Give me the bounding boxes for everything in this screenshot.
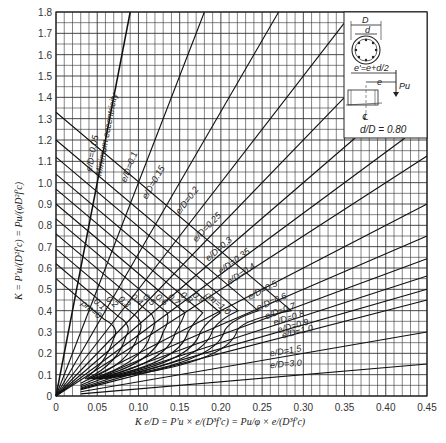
section-inset: D d e'=e+d/2 e Pu ℄ d/D = 0.80 (344, 12, 427, 138)
inset-ratio-label: d/D = 0.80 (360, 124, 407, 135)
svg-text:0.30: 0.30 (294, 402, 314, 413)
inset-D-label: D (362, 15, 369, 25)
svg-text:0.10: 0.10 (129, 402, 149, 413)
svg-text:1.0: 1.0 (38, 178, 52, 189)
svg-text:e/D=3.0: e/D=3.0 (270, 358, 303, 371)
svg-text:0.20: 0.20 (211, 402, 231, 413)
svg-text:0.5: 0.5 (38, 284, 52, 295)
inset-pu-label: Pu (399, 81, 410, 91)
y-axis-title: K = P'u/(D²f'c) = Pu/(φD²f'c) (13, 181, 25, 301)
svg-text:1.5: 1.5 (38, 71, 52, 82)
svg-text:0.8: 0.8 (38, 220, 52, 231)
svg-text:0.2: 0.2 (38, 348, 52, 359)
svg-text:e/D=0.2: e/D=0.2 (173, 185, 200, 216)
interaction-chart: D d e'=e+d/2 e Pu ℄ d/D = 0.80 00.050.10… (0, 0, 446, 443)
svg-text:1.2: 1.2 (38, 135, 52, 146)
svg-text:1.8: 1.8 (38, 7, 52, 18)
svg-text:0.40: 0.40 (376, 402, 396, 413)
svg-text:0.6: 0.6 (38, 263, 52, 274)
svg-text:0.05: 0.05 (87, 402, 107, 413)
svg-text:0.15: 0.15 (170, 402, 190, 413)
svg-text:0.3: 0.3 (38, 327, 52, 338)
x-axis-title: K e/D = P'u × e/(D³f'c) = Pu/φ × e/(D³f'… (134, 416, 306, 428)
svg-text:1.7: 1.7 (38, 28, 52, 39)
svg-text:0: 0 (53, 402, 59, 413)
svg-text:0.45: 0.45 (417, 402, 437, 413)
svg-text:0.35: 0.35 (335, 402, 355, 413)
inset-eprime-label: e'=e+d/2 (354, 63, 389, 73)
svg-text:1.6: 1.6 (38, 50, 52, 61)
svg-text:1.1: 1.1 (38, 156, 52, 167)
svg-text:0: 0 (46, 391, 52, 402)
svg-text:1.3: 1.3 (38, 114, 52, 125)
svg-text:0.7: 0.7 (38, 242, 52, 253)
svg-text:1.4: 1.4 (38, 92, 52, 103)
svg-text:0.9: 0.9 (38, 199, 52, 210)
svg-text:0.25: 0.25 (252, 402, 272, 413)
svg-text:0.4: 0.4 (38, 306, 52, 317)
inset-e-label: e (377, 77, 382, 87)
inset-centerline-label: ℄ (362, 112, 368, 122)
svg-text:0.1: 0.1 (38, 370, 52, 381)
